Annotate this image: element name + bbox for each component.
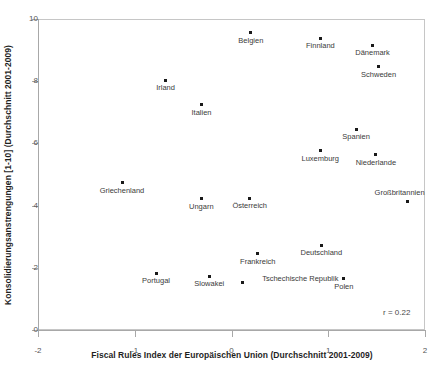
data-point-label: Österreich bbox=[232, 202, 267, 210]
data-point-label: Polen bbox=[334, 283, 353, 291]
data-point-label: Griechenland bbox=[100, 187, 145, 195]
data-point-marker[interactable] bbox=[241, 281, 244, 284]
data-point-label: Großbritannien bbox=[375, 189, 425, 197]
data-point-marker[interactable] bbox=[208, 275, 211, 278]
data-point-marker[interactable] bbox=[377, 65, 380, 68]
x-tick-mark bbox=[135, 331, 136, 337]
data-point-label: Luxemburg bbox=[302, 155, 340, 163]
data-point-marker[interactable] bbox=[248, 197, 251, 200]
data-point-label: Slowakei bbox=[194, 280, 224, 288]
data-point-marker[interactable] bbox=[374, 153, 377, 156]
data-point-marker[interactable] bbox=[319, 37, 322, 40]
data-point-label: Irland bbox=[156, 84, 175, 92]
y-axis-title-holder: Konsolidierungsanstrengungen [1-10] (Dur… bbox=[0, 19, 16, 331]
data-point-label: Portugal bbox=[142, 277, 170, 285]
data-point-marker[interactable] bbox=[406, 200, 409, 203]
data-point-marker[interactable] bbox=[371, 44, 374, 47]
x-tick-mark bbox=[232, 331, 233, 337]
data-point-label: Finnland bbox=[306, 42, 335, 50]
data-point-marker[interactable] bbox=[320, 244, 323, 247]
x-tick-mark bbox=[425, 331, 426, 337]
data-point-marker[interactable] bbox=[256, 252, 259, 255]
data-point-marker[interactable] bbox=[249, 31, 252, 34]
data-point-marker[interactable] bbox=[155, 272, 158, 275]
scatter-chart-figure: 0246810 -2-1012 Konsolidierungsanstrengu… bbox=[0, 0, 438, 367]
data-point-label: Deutschland bbox=[300, 249, 342, 257]
plot-area-frame bbox=[38, 19, 425, 330]
data-point-marker[interactable] bbox=[164, 79, 167, 82]
data-point-label: Frankreich bbox=[240, 258, 275, 266]
x-axis-title: Fiscal Rules Index der Europäischen Unio… bbox=[38, 350, 426, 360]
x-tick-mark bbox=[38, 331, 39, 337]
data-point-marker[interactable] bbox=[319, 149, 322, 152]
data-point-marker[interactable] bbox=[200, 197, 203, 200]
correlation-annotation: r = 0.22 bbox=[383, 308, 410, 317]
data-point-label: Spanien bbox=[342, 133, 370, 141]
data-point-marker[interactable] bbox=[200, 103, 203, 106]
data-point-label: Dänemark bbox=[355, 49, 390, 57]
data-point-label: Italien bbox=[192, 109, 212, 117]
y-axis-spine bbox=[38, 19, 39, 331]
y-axis-title: Konsolidierungsanstrengungen [1-10] (Dur… bbox=[3, 45, 13, 305]
data-point-label: Tschechische Republik bbox=[262, 275, 338, 283]
data-point-marker[interactable] bbox=[121, 181, 124, 184]
data-point-marker[interactable] bbox=[355, 128, 358, 131]
cutoff-title-remnant bbox=[28, 0, 348, 1]
data-point-label: Schweden bbox=[361, 71, 396, 79]
data-point-label: Ungarn bbox=[189, 203, 214, 211]
data-point-label: Niederlande bbox=[356, 159, 396, 167]
data-point-marker[interactable] bbox=[342, 277, 345, 280]
data-point-label: Belgien bbox=[238, 37, 263, 45]
x-tick-mark bbox=[328, 331, 329, 337]
